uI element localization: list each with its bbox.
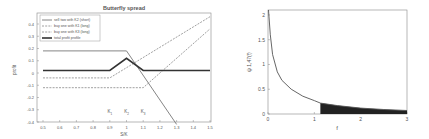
y-tick-label: -0.4 (27, 120, 35, 125)
y-tick-label: 0.5 (258, 86, 265, 92)
x-tick-label: 0.8 (90, 125, 96, 130)
legend-entry: buy one with K3 (long) (54, 30, 90, 34)
x-tick-label: 3 (406, 116, 409, 122)
chart-title: Butterfly spread (103, 5, 145, 11)
plot-area (268, 10, 407, 114)
legend-entry: total profit profile (54, 36, 81, 40)
y-tick-label: 1.5 (258, 37, 265, 43)
legend-entry: buy one with K1 (long) (54, 24, 90, 28)
x-tick-label: 0.6 (57, 125, 63, 130)
x-tick-label: 1.2 (157, 125, 163, 130)
y-tick-label: -0.1 (27, 83, 35, 88)
y-tick-label: 0.3 (28, 34, 34, 39)
x-axis-label: S/K (120, 132, 127, 137)
x-tick-label: 0.7 (74, 125, 80, 130)
y-tick-label: 0 (262, 111, 265, 117)
x-tick-label: 1 (313, 116, 316, 122)
x-tick-label: 2 (359, 116, 362, 122)
x-tick-label: 1.1 (140, 125, 146, 130)
legend: sell two with K2 (short)buy one with K1 … (40, 15, 100, 41)
x-tick-label: 0.9 (107, 125, 113, 130)
y-tick-label: 0 (32, 71, 35, 76)
y-tick-label: 1 (262, 61, 265, 67)
x-tick-label: 0 (267, 116, 270, 122)
y-tick-label: 0.4 (28, 22, 34, 27)
legend-entry: sell two with K2 (short) (54, 18, 90, 22)
y-tick-label: 2 (262, 12, 265, 18)
y-tick-label: 0.1 (28, 58, 34, 63)
x-tick-label: 1.4 (191, 125, 197, 130)
x-axis-label: f (336, 125, 338, 131)
y-tick-label: 0.2 (28, 46, 34, 51)
x-tick-label: 0.5 (40, 125, 46, 130)
butterfly-spread-chart: Butterfly spread 0.50.60.70.80.911.11.21… (12, 5, 214, 137)
y-axis-label: ψ 1,47(f) (246, 52, 252, 72)
density-chart: 0123 00.511.52 f ψ 1,47(f) (246, 10, 409, 131)
x-tick-label: 1.3 (174, 125, 180, 130)
y-axis-label: profit (12, 64, 17, 75)
x-tick-label: 1 (125, 125, 128, 130)
y-tick-label: -0.2 (27, 95, 35, 100)
y-tick-label: -0.3 (27, 107, 35, 112)
x-tick-label: 1.5 (207, 125, 213, 130)
figure: Butterfly spread 0.50.60.70.80.911.11.21… (0, 0, 429, 139)
